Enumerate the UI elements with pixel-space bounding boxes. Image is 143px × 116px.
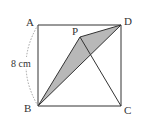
vertex-label-c: C <box>124 104 131 116</box>
point-label-p: P <box>72 25 78 37</box>
vertex-label-b: B <box>24 102 31 114</box>
square-diagram: A D B C P 8 cm <box>0 0 143 116</box>
vertex-label-d: D <box>124 15 132 27</box>
dimension-label: 8 cm <box>11 58 31 69</box>
vertex-label-a: A <box>26 16 34 28</box>
geometry-figure: A D B C P 8 cm <box>0 0 143 116</box>
segment-pc <box>80 37 121 106</box>
